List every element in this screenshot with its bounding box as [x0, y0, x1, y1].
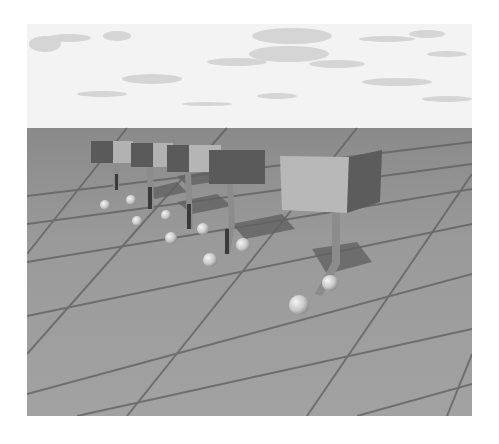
- clouds: [29, 28, 472, 106]
- sphere: [197, 223, 209, 235]
- sphere: [126, 195, 136, 205]
- spheres: [100, 195, 338, 315]
- sphere: [161, 210, 171, 220]
- sign-box-5: [280, 150, 382, 296]
- sphere: [100, 200, 110, 210]
- rendered-3d-scene: [27, 24, 472, 416]
- sphere: [322, 275, 338, 291]
- sphere: [203, 253, 217, 267]
- scene-objects: [27, 24, 472, 416]
- sphere: [165, 232, 177, 244]
- sphere: [132, 216, 142, 226]
- sphere: [289, 295, 309, 315]
- sphere: [236, 238, 250, 252]
- sign-box-2: [131, 143, 173, 209]
